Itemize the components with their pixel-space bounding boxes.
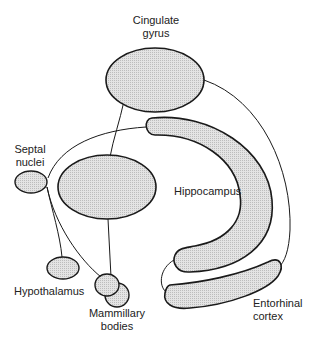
cingulate-gyrus-shape [106,48,204,112]
cingulate-label-line2: gyrus [130,27,182,40]
entorhinal-cortex-label: Entorhinal cortex [253,297,303,323]
septal-nuclei-shape [15,171,47,193]
mammillary-label-line1: Mammillary [88,307,146,320]
thalamus-mammillary-line [108,219,111,277]
entorhinal-label-line1: Entorhinal [253,297,303,310]
cingulate-thalamus-line [110,101,124,157]
hypothalamus-label: Hypothalamus [14,285,84,298]
cingulate-label-line1: Cingulate [130,14,182,27]
mammillary-label-line2: bodies [88,320,146,333]
thalamus-shape [58,155,156,219]
hippocampus-label: Hippocampus [174,185,241,198]
entorhinal-label-line2: cortex [253,310,303,323]
septal-nuclei-label: Septal nuclei [10,143,50,169]
septal-label-line1: Septal [10,143,50,156]
mammillary-bodies-label: Mammillary bodies [88,307,146,333]
hypothalamus-shape [47,257,79,279]
cingulate-gyrus-label: Cingulate gyrus [130,14,182,40]
septal-label-line2: nuclei [10,156,50,169]
mammillary-body-1 [95,274,119,296]
